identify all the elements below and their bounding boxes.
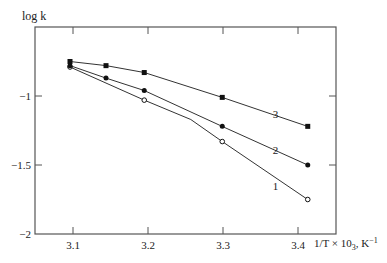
x-tick-label: 3.4 xyxy=(291,239,305,251)
data-series: 123 xyxy=(68,59,311,202)
dot-marker xyxy=(104,76,109,81)
square-marker xyxy=(104,63,109,68)
open-circle-marker xyxy=(142,98,147,103)
arrhenius-chart: 3.13.23.33.4−1−1.5−2 123 log k 1/T × 103… xyxy=(0,0,387,263)
dot-marker xyxy=(142,88,147,93)
square-marker xyxy=(142,70,147,75)
axes-box xyxy=(35,27,336,234)
series-label: 1 xyxy=(273,180,279,192)
y-tick-label: −1 xyxy=(19,90,31,102)
open-circle-marker xyxy=(220,139,225,144)
y-axis-label: log k xyxy=(22,9,46,23)
x-axis-label: 1/T × 103, K−1 xyxy=(314,236,378,252)
dot-marker xyxy=(305,163,310,168)
y-tick-label: −1.5 xyxy=(11,159,31,171)
x-tick-label: 3.1 xyxy=(66,239,80,251)
open-circle-marker xyxy=(305,197,310,202)
series-label: 3 xyxy=(273,108,279,120)
dot-marker xyxy=(220,124,225,129)
square-marker xyxy=(68,59,73,64)
square-marker xyxy=(305,124,310,129)
x-tick-label: 3.3 xyxy=(216,239,230,251)
axis-ticks: 3.13.23.33.4−1−1.5−2 xyxy=(11,27,336,251)
plot-frame xyxy=(35,27,336,234)
square-marker xyxy=(220,95,225,100)
series-1: 1 xyxy=(68,65,310,202)
x-tick-label: 3.2 xyxy=(141,239,155,251)
y-tick-label: −2 xyxy=(19,228,31,240)
series-label: 2 xyxy=(273,144,279,156)
